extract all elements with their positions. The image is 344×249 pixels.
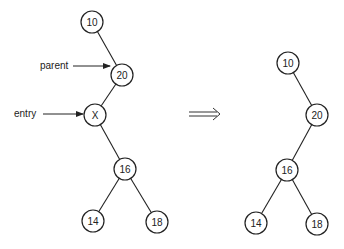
svg-text:20: 20 (116, 70, 128, 81)
svg-text:14: 14 (250, 218, 262, 229)
implies-arrow-icon (189, 108, 220, 120)
svg-text:10: 10 (86, 17, 98, 28)
node-10: 10 (81, 11, 103, 33)
before-tree-nodes: 10 20 X 16 14 18 (81, 11, 168, 233)
svg-text:20: 20 (311, 110, 323, 121)
parent-label: parent (40, 60, 69, 71)
svg-text:X: X (92, 110, 99, 121)
svg-text:14: 14 (87, 216, 99, 227)
node-x: X (84, 104, 106, 126)
node-16-after: 16 (276, 159, 298, 181)
node-20-after: 20 (306, 104, 328, 126)
tree-diagram: parent entry 10 20 X 16 14 18 (0, 0, 344, 249)
node-10-after: 10 (277, 52, 299, 74)
svg-text:16: 16 (281, 165, 293, 176)
node-18: 18 (146, 211, 168, 233)
node-20: 20 (111, 64, 133, 86)
node-16: 16 (114, 158, 136, 180)
parent-pointer: parent (40, 60, 110, 71)
after-tree-nodes: 10 20 16 14 18 (245, 52, 328, 235)
node-18-after: 18 (306, 213, 328, 235)
svg-text:10: 10 (282, 58, 294, 69)
entry-pointer: entry (14, 108, 83, 119)
entry-label: entry (14, 108, 36, 119)
after-tree-edges (256, 63, 317, 224)
svg-text:18: 18 (151, 217, 163, 228)
svg-text:16: 16 (119, 164, 131, 175)
svg-text:18: 18 (311, 219, 323, 230)
node-14: 14 (82, 210, 104, 232)
node-14-after: 14 (245, 212, 267, 234)
